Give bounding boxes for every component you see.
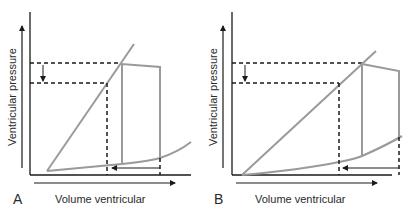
- x-axis-label: Volume ventricular: [55, 193, 146, 205]
- edpvr-curve: [47, 142, 191, 171]
- y-axis-label: Ventricular pressure: [6, 48, 18, 146]
- panel-letter: B: [214, 191, 223, 207]
- y-axis-label: Ventricular pressure: [207, 48, 219, 146]
- panel-b: Ventricular pressure Volume ventricular …: [207, 12, 402, 207]
- panel-a: Ventricular pressure Volume ventricular …: [6, 12, 191, 207]
- espvr-line: [242, 51, 376, 175]
- panel-letter: A: [13, 191, 23, 207]
- pressure-volume-diagram: Ventricular pressure Volume ventricular …: [0, 0, 413, 213]
- pv-loop: [122, 64, 160, 164]
- x-axis-label: Volume ventricular: [255, 193, 346, 205]
- pv-loop: [362, 64, 399, 156]
- edpvr-curve: [242, 136, 402, 175]
